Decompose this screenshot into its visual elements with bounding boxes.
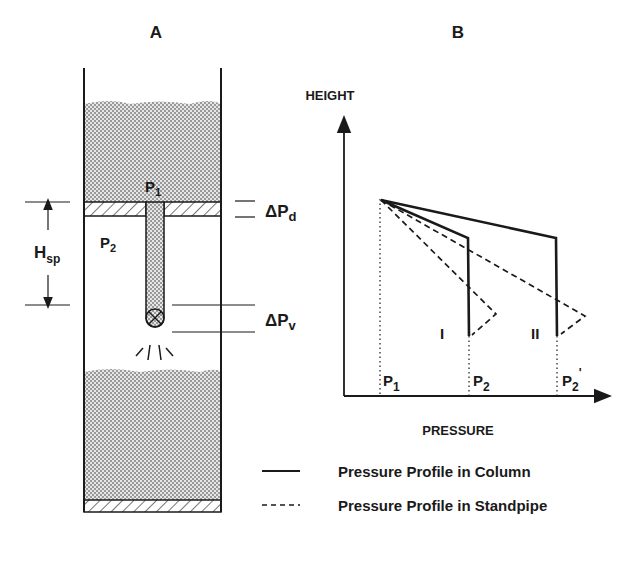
discharge-spray-icon <box>136 345 173 360</box>
distributor-plate-right <box>164 202 221 216</box>
label-hsp: Hsp <box>34 243 60 266</box>
panel-b: B HEIGHT PRESSURE I II P1 P2 P2' <box>305 23 603 438</box>
y-axis-label: HEIGHT <box>305 88 354 103</box>
legend-label-standpipe: Pressure Profile in Standpipe <box>338 497 547 514</box>
bottom-distributor-plate <box>84 500 221 512</box>
tick-p2-prime: P2' <box>562 366 582 394</box>
x-axis-label: PRESSURE <box>422 423 494 438</box>
panel-b-title: B <box>452 23 464 42</box>
panel-a: A P1 P2 Hsp <box>25 23 297 512</box>
standpipe-profile <box>381 200 585 335</box>
column-profile <box>381 200 557 336</box>
distributor-plate-left <box>84 202 146 216</box>
label-delta-pv: ΔPv <box>265 311 297 333</box>
tick-p1: P1 <box>383 372 400 394</box>
figure: A P1 P2 Hsp <box>0 0 629 571</box>
label-delta-pd: ΔPd <box>265 202 297 224</box>
legend: Pressure Profile in Column Pressure Prof… <box>262 463 547 514</box>
case-label-i: I <box>440 325 444 342</box>
panel-a-title: A <box>150 23 162 42</box>
lower-particle-bed <box>84 369 221 500</box>
legend-label-column: Pressure Profile in Column <box>338 463 531 480</box>
tick-p2: P2 <box>473 372 490 394</box>
label-p2: P2 <box>100 234 116 254</box>
case-label-ii: II <box>531 325 539 342</box>
